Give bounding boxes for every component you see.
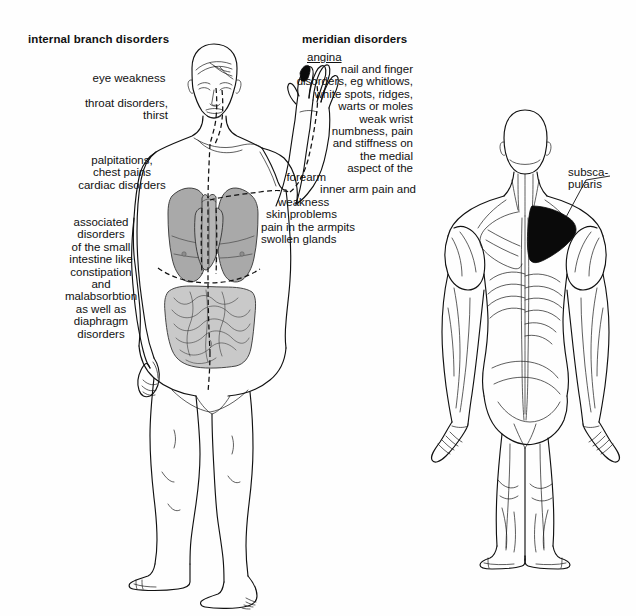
posterior-muscle-figure <box>426 108 626 568</box>
chart-canvas: internal branch disorders eye weakness t… <box>0 0 636 616</box>
anterior-body-figure <box>110 40 370 580</box>
